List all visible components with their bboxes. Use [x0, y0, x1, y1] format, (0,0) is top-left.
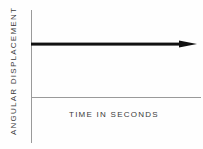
series-line-segment: [31, 43, 181, 46]
data-series-constant-displacement: [31, 38, 197, 51]
arrow-head-icon: [179, 41, 197, 48]
y-axis-line: [31, 10, 32, 143]
x-axis-line: [31, 97, 201, 98]
y-axis-label: ANGULAR DISPLACEMENT: [9, 4, 19, 138]
x-axis-label: TIME IN SECONDS: [69, 110, 159, 120]
chart-figure: TIME IN SECONDS ANGULAR DISPLACEMENT: [0, 0, 203, 149]
